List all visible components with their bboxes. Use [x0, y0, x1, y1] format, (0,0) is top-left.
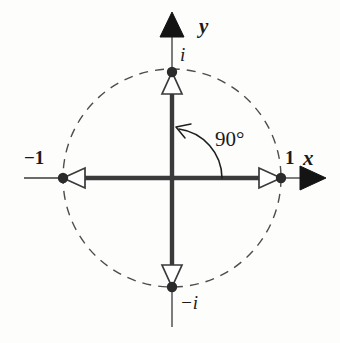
y-axis-label: y [199, 16, 208, 37]
point-marker-minus-i [167, 282, 177, 292]
point-label-i: i [180, 45, 185, 64]
point-marker-minus-one [58, 173, 68, 183]
point-marker-one [276, 173, 286, 183]
y-axis-arrowhead [160, 12, 184, 37]
angle-label-90deg: 90° [215, 129, 244, 150]
figure-root: y x i 1 −1 −i 90° [0, 0, 340, 343]
x-axis-label: x [303, 148, 314, 169]
point-marker-i [167, 67, 177, 77]
complex-plane-diagram [0, 0, 340, 343]
point-label-minus-one: −1 [24, 148, 44, 167]
point-label-one: 1 [285, 148, 295, 167]
point-label-minus-i: −i [180, 293, 198, 312]
